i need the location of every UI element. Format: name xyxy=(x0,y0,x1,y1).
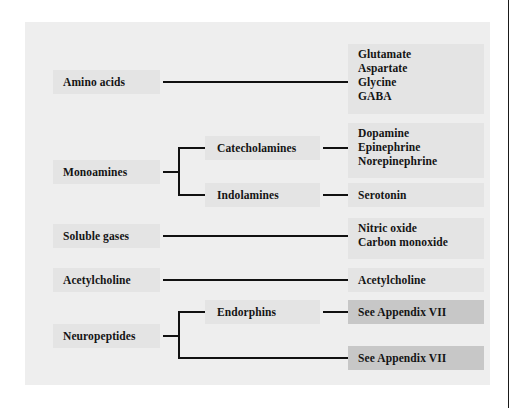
bracket-monoamines-vertical xyxy=(178,147,180,196)
node-label: Neuropeptides xyxy=(63,329,136,343)
node-acetylcholine-transmitter: Acetylcholine xyxy=(348,268,484,292)
connector-bracket-to-catecholamines xyxy=(178,147,205,149)
item-appendix-endorphins: See Appendix VII xyxy=(358,305,446,319)
node-label: Monoamines xyxy=(63,165,127,179)
connector-soluble-gases-to-items xyxy=(163,235,348,237)
connector-amino-acids-to-items xyxy=(163,81,348,83)
node-monoamines: Monoamines xyxy=(53,160,160,184)
item-aspartate: Aspartate xyxy=(358,61,484,75)
node-label: Endorphins xyxy=(217,305,276,319)
item-glutamate: Glutamate xyxy=(358,47,484,61)
node-label: Amino acids xyxy=(63,75,125,89)
node-acetylcholine-class: Acetylcholine xyxy=(53,268,160,292)
item-dopamine: Dopamine xyxy=(358,126,484,140)
node-label: Catecholamines xyxy=(217,141,296,155)
item-serotonin: Serotonin xyxy=(358,188,407,202)
connector-bracket-to-appendix-other xyxy=(178,357,348,359)
item-acetylcholine: Acetylcholine xyxy=(358,273,426,287)
item-appendix-other: See Appendix VII xyxy=(358,351,446,365)
connector-bracket-to-indolamines xyxy=(178,194,205,196)
node-appendix-other-neuropeptides: See Appendix VII xyxy=(348,346,484,370)
connector-endorphins-to-appendix xyxy=(323,311,348,313)
bracket-neuropeptides-vertical xyxy=(178,311,180,359)
node-appendix-endorphins: See Appendix VII xyxy=(348,300,484,324)
node-neuropeptides: Neuropeptides xyxy=(53,324,160,348)
node-catecholamines: Catecholamines xyxy=(205,136,320,160)
connector-indolamines-to-items xyxy=(323,194,348,196)
item-norepinephrine: Norepinephrine xyxy=(358,154,484,168)
page-edge-rule xyxy=(508,0,509,408)
item-nitric-oxide: Nitric oxide xyxy=(358,221,484,235)
node-soluble-gas-transmitters: Nitric oxide Carbon monoxide xyxy=(348,218,484,259)
node-indolamine-transmitters: Serotonin xyxy=(348,183,484,207)
item-carbon-monoxide: Carbon monoxide xyxy=(358,235,484,249)
node-amino-acids: Amino acids xyxy=(53,70,160,94)
item-gaba: GABA xyxy=(358,89,484,103)
node-catecholamine-transmitters: Dopamine Epinephrine Norepinephrine xyxy=(348,123,484,178)
figure-panel: Amino acids Glutamate Aspartate Glycine … xyxy=(25,22,490,385)
figure-page: Amino acids Glutamate Aspartate Glycine … xyxy=(0,0,517,408)
item-epinephrine: Epinephrine xyxy=(358,140,484,154)
connector-catecholamines-to-items xyxy=(323,147,348,149)
item-glycine: Glycine xyxy=(358,75,484,89)
node-label: Indolamines xyxy=(217,188,279,202)
node-endorphins: Endorphins xyxy=(205,300,320,324)
node-label: Soluble gases xyxy=(63,229,129,243)
node-amino-acid-transmitters: Glutamate Aspartate Glycine GABA xyxy=(348,44,484,114)
connector-acetylcholine-to-items xyxy=(163,279,348,281)
node-soluble-gases: Soluble gases xyxy=(53,224,160,248)
node-label: Acetylcholine xyxy=(63,273,131,287)
connector-bracket-to-endorphins xyxy=(178,311,205,313)
node-indolamines: Indolamines xyxy=(205,183,320,207)
